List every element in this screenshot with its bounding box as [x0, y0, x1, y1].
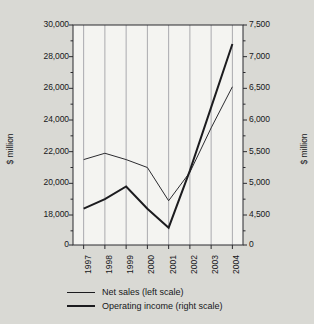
right-axis-tick-6000: 6,000 — [249, 114, 270, 124]
legend-label-net-sales: Net sales (left scale) — [102, 287, 184, 297]
right-axis-tick-6500: 6,500 — [249, 82, 270, 92]
legend-item-operating-income: Operating income (right scale) — [66, 299, 306, 313]
left-axis-tick-18000: 18,000 — [44, 209, 69, 219]
legend-item-net-sales: Net sales (left scale) — [66, 285, 306, 299]
right-axis-tick-0: 0 — [249, 239, 254, 249]
right-axis-tick-7500: 7,500 — [249, 19, 270, 29]
legend-line-swatch-operating-income — [66, 305, 96, 307]
chart-figure: 30,00028,00026,00024,00022,00020,00018,0… — [0, 0, 314, 324]
chart-plot-canvas — [0, 0, 314, 324]
left-axis-tick-20000: 20,000 — [44, 177, 69, 187]
x-axis-tick-2002: 2002 — [189, 255, 199, 285]
right-axis-tick-5500: 5,500 — [249, 146, 270, 156]
left-axis-tick-28000: 28,000 — [44, 51, 69, 61]
left-axis-tick-30000: 30,000 — [44, 19, 69, 29]
x-axis-tick-1999: 1999 — [125, 255, 135, 285]
chart-legend: Net sales (left scale) Operating income … — [66, 285, 306, 313]
legend-line-swatch-net-sales — [66, 292, 96, 293]
x-axis-tick-2004: 2004 — [231, 255, 241, 285]
left-axis-tick-22000: 22,000 — [44, 146, 69, 156]
right-axis-tick-7000: 7,000 — [249, 51, 270, 61]
left-axis-title: $ million — [5, 121, 15, 177]
left-axis-tick-0: 0 — [64, 239, 69, 249]
left-axis-tick-24000: 24,000 — [44, 114, 69, 124]
right-axis-tick-4500: 4,500 — [249, 209, 270, 219]
right-axis-tick-5000: 5,000 — [249, 177, 270, 187]
legend-label-operating-income: Operating income (right scale) — [102, 301, 223, 311]
x-axis-tick-1998: 1998 — [104, 255, 114, 285]
plot-background — [73, 25, 243, 245]
x-axis-tick-2003: 2003 — [210, 255, 220, 285]
x-axis-tick-2001: 2001 — [168, 255, 178, 285]
right-axis-title: $ million — [299, 121, 309, 177]
x-axis-tick-1997: 1997 — [83, 255, 93, 285]
left-axis-tick-26000: 26,000 — [44, 82, 69, 92]
x-axis-tick-2000: 2000 — [146, 255, 156, 285]
